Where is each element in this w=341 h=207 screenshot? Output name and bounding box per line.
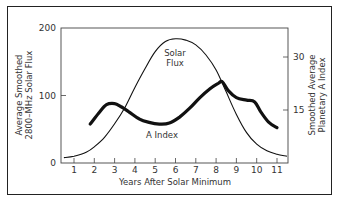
line-chart: 0100200 1530 1234567891011 Solar Flux A … xyxy=(0,0,341,207)
x-tick-label: 9 xyxy=(234,165,240,175)
x-tick-label: 4 xyxy=(132,165,138,175)
a-index-line xyxy=(90,81,277,127)
svg-text:Smoothed Average: Smoothed Average xyxy=(307,54,317,135)
x-tick-label: 11 xyxy=(271,165,282,175)
right-axis-title: Smoothed Average Planetary A Index xyxy=(307,54,327,135)
y-tick-label: 100 xyxy=(39,91,56,101)
x-tick-label: 3 xyxy=(112,165,118,175)
x-tick-label: 7 xyxy=(193,165,199,175)
x-tick-label: 6 xyxy=(173,165,179,175)
a-index-label: A Index xyxy=(146,130,178,140)
x-axis: 1234567891011 xyxy=(71,158,283,175)
x-tick-label: 8 xyxy=(213,165,219,175)
right-y-axis: 1530 xyxy=(283,52,305,115)
x-tick-label: 10 xyxy=(251,165,263,175)
left-y-axis: 0100200 xyxy=(39,23,66,168)
y-tick-label: 200 xyxy=(39,23,56,33)
x-tick-label: 2 xyxy=(91,165,97,175)
x-tick-label: 5 xyxy=(152,165,158,175)
svg-text:Planetary A Index: Planetary A Index xyxy=(317,58,327,133)
y-tick-label: 0 xyxy=(50,158,56,168)
y2-tick-label: 15 xyxy=(293,105,304,115)
left-axis-title: Average Smoothed 2800–MHz Solar Flux xyxy=(14,51,34,140)
y2-tick-label: 30 xyxy=(293,52,305,62)
solar-flux-label: Solar xyxy=(164,48,186,58)
svg-text:2800–MHz Solar Flux: 2800–MHz Solar Flux xyxy=(24,51,34,140)
solar-flux-label: Flux xyxy=(166,58,184,68)
x-tick-label: 1 xyxy=(71,165,77,175)
x-axis-title: Years After Solar Minimum xyxy=(118,177,231,187)
svg-text:Average Smoothed: Average Smoothed xyxy=(14,54,24,135)
